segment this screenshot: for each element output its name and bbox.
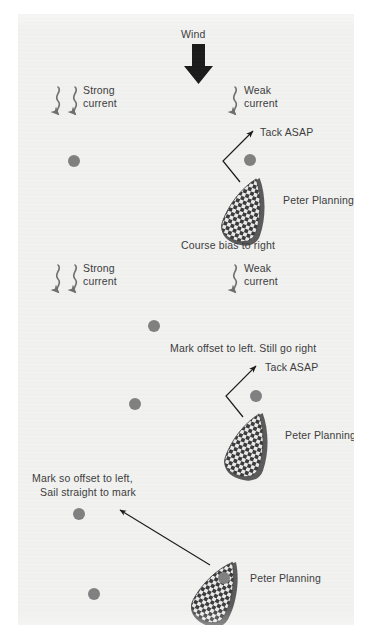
mark-mid-lower	[129, 398, 141, 410]
diagram-vector-layer	[18, 14, 354, 625]
mark-mid-upper	[148, 320, 160, 332]
tack-asap-label-top: Tack ASAP	[260, 126, 313, 139]
mark-so-offset-label-line1: Mark so offset to left,	[32, 472, 133, 485]
sail-straight-arrow-bottom	[120, 510, 210, 565]
diagram-page: Wind Strong current Weak current Tack AS…	[0, 0, 372, 639]
peter-planning-label-mid: Peter Planning	[285, 429, 354, 442]
current-label-strong-top-line1: Strong	[83, 84, 115, 97]
current-label-weak-mid-line1: Weak	[244, 262, 271, 275]
course-bias-label: Course bias to right	[181, 239, 275, 252]
boat-mid	[220, 406, 282, 485]
mark-so-offset-label-line2: Sail straight to mark	[40, 486, 136, 499]
peter-planning-label-top: Peter Planning	[283, 194, 354, 207]
current-arrow-weak-top	[234, 87, 237, 114]
current-label-strong-top-line2: current	[83, 97, 117, 110]
current-label-strong-mid-line1: Strong	[83, 262, 115, 275]
boat-bottom	[185, 553, 253, 625]
current-label-weak-mid-line2: current	[244, 275, 278, 288]
current-arrow-weak-mid	[234, 265, 237, 292]
current-arrow-strong-top	[57, 87, 77, 114]
current-arrow-strong-mid	[57, 265, 77, 292]
mark-low-right	[218, 572, 230, 584]
peter-planning-label-bottom: Peter Planning	[250, 572, 321, 585]
wind-label: Wind	[181, 28, 206, 41]
mark-top-right	[244, 154, 256, 166]
tack-asap-label-mid: Tack ASAP	[265, 361, 318, 374]
diagram-canvas: Wind Strong current Weak current Tack AS…	[18, 14, 354, 625]
mark-mid-right	[250, 390, 262, 402]
mark-offset-left-label: Mark offset to left. Still go right	[170, 342, 316, 355]
mark-low-lower	[88, 588, 100, 600]
current-label-weak-top-line2: current	[244, 97, 278, 110]
current-label-strong-mid-line2: current	[83, 275, 117, 288]
mark-top-left	[68, 155, 80, 167]
wind-arrow-icon	[184, 44, 213, 84]
mark-low-upper	[73, 508, 85, 520]
current-label-weak-top-line1: Weak	[244, 84, 271, 97]
